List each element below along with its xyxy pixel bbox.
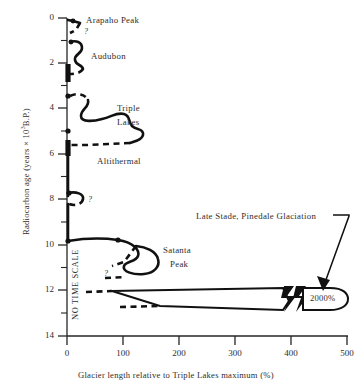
label-satanta-peak-line1: Satanta [163, 246, 191, 255]
y-axis-title-main: Radiocarbon age (years [21, 148, 31, 235]
y-axis-title-times: × [21, 141, 31, 146]
y-tick-label-8: 8 [38, 194, 54, 203]
curve-triple-lakes-lead [70, 94, 88, 100]
label-late-stade-pinedale-glaciation: Late Stade, Pinedale Glaciation [196, 212, 316, 221]
late-pinedale-wedge [112, 288, 289, 310]
x-axis-title: Glacier length relative to Triple Lakes … [78, 371, 274, 380]
label-two-thousand-percent: 2000% [310, 294, 335, 303]
label-altithermal: Altithermal [97, 157, 141, 166]
curve-audubon [70, 41, 83, 69]
x-tick-label-100: 100 [106, 349, 140, 358]
curve-satanta-peak-dashed [112, 246, 136, 266]
y-tick-label-6: 6 [38, 149, 54, 158]
label-arapaho-peak: Arapaho Peak [86, 16, 139, 25]
y-axis-title: Radiocarbon age (years × 103B.P.) [21, 108, 30, 235]
x-axis-major-ticks [67, 336, 347, 345]
curve-eight-ka-loop-dashed [69, 199, 83, 205]
y-tick-label-0: 0 [38, 13, 54, 22]
curve-audubon-dashed [69, 69, 83, 74]
x-tick-label-0: 0 [50, 349, 84, 358]
late-pinedale-dashed-lower [120, 306, 160, 307]
y-tick-label-14: 14 [34, 331, 54, 340]
x-tick-label-500: 500 [330, 349, 358, 358]
label-triple-lakes-line2: Lakes [117, 118, 140, 127]
late-pinedale-dashed-upper [86, 291, 112, 292]
uncertainty-marker-arapaho: ? [84, 28, 88, 36]
x-tick-label-300: 300 [218, 349, 252, 358]
uncertainty-marker-eight-ka: ? [88, 196, 92, 204]
label-triple-lakes-line1: Triple [117, 104, 140, 113]
curve-eleven-ka-stub [105, 277, 125, 278]
curve-triple-lakes-trail [70, 143, 130, 145]
glacier-length-vs-radiocarbon-age-chart: 0 2 4 6 8 10 12 14 0 100 200 300 400 500… [0, 0, 358, 385]
y-tick-label-4: 4 [38, 103, 54, 112]
x-tick-label-400: 400 [274, 349, 308, 358]
late-stade-leader-line [323, 215, 349, 288]
curve-satanta-peak [68, 239, 158, 275]
y-tick-label-2: 2 [38, 58, 54, 67]
y-tick-label-12: 12 [34, 285, 54, 294]
curve-arapaho-peak-dashed [70, 23, 80, 33]
no-time-scale-note: NO TIME SCALE [72, 249, 80, 320]
label-audubon: Audubon [91, 52, 126, 61]
y-tick-label-10: 10 [34, 240, 54, 249]
y-axis-title-bp: B.P.) [21, 108, 31, 126]
x-tick-label-200: 200 [162, 349, 196, 358]
label-satanta-peak-line2: Peak [170, 260, 188, 269]
y-axis-title-units: 10 [21, 129, 31, 138]
uncertainty-marker-eleven-ka: ? [104, 270, 108, 278]
y-axis-title-exponent: 3 [20, 126, 26, 129]
